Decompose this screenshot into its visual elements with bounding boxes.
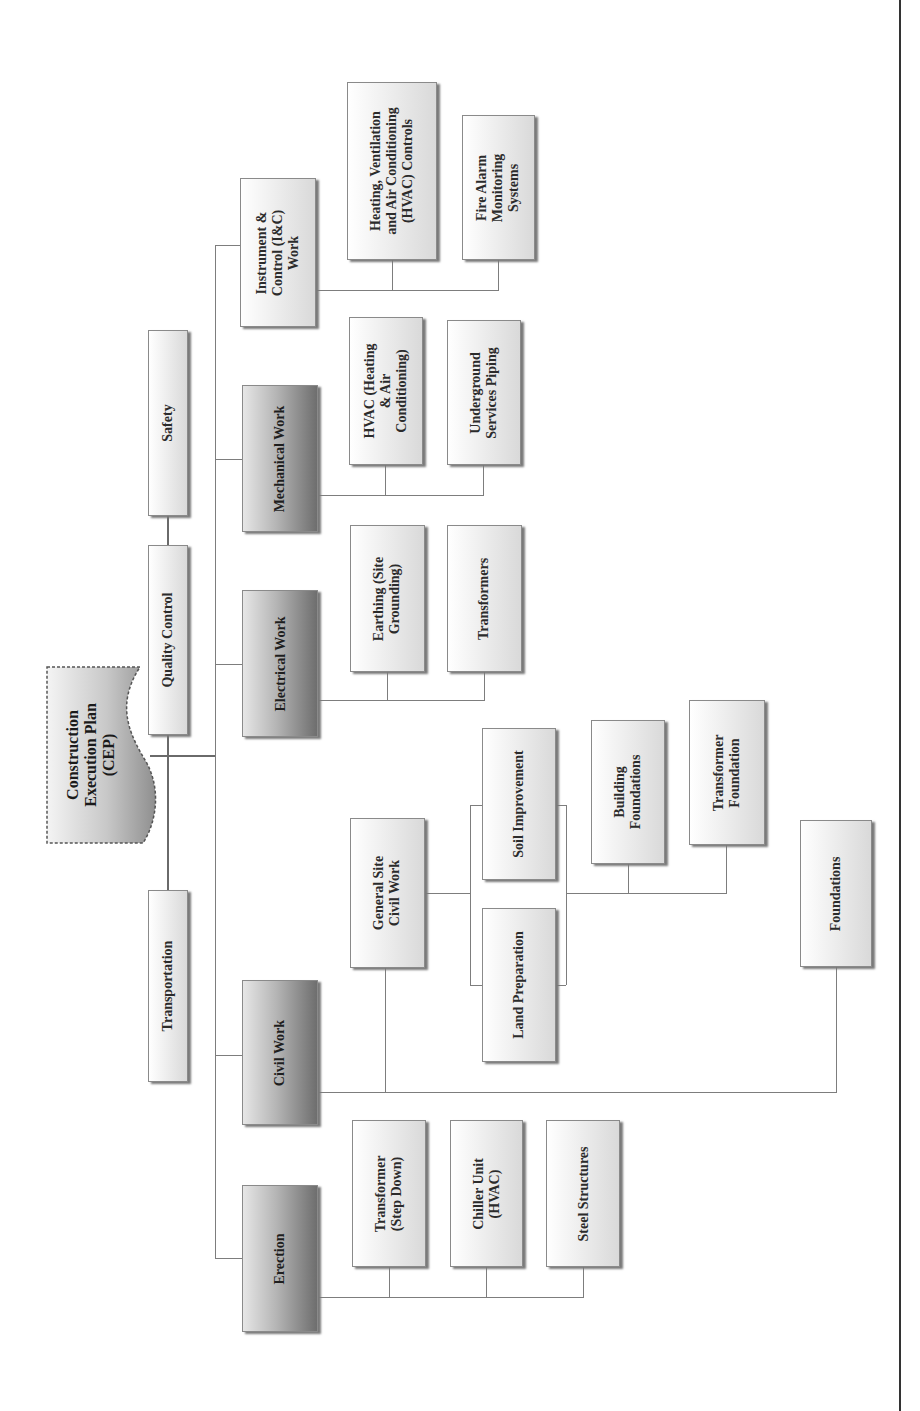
connector-bracket-right — [566, 805, 567, 985]
connector-mechanical-hvac — [385, 465, 386, 495]
node-label: Safety — [160, 404, 176, 441]
connector-ic-hvac-controls — [392, 260, 393, 290]
connector-electrical-transformers — [484, 672, 485, 700]
node-quality-control[interactable]: Quality Control — [148, 545, 188, 735]
node-label: Electrical Work — [272, 616, 288, 711]
node-label: Soil Improvement — [511, 750, 527, 857]
root-node-cep[interactable]: Construction Execution Plan (CEP) — [45, 665, 161, 845]
connector-bracket-left-bottom — [470, 985, 482, 986]
connector-civil-foundations — [836, 967, 837, 1092]
node-label: Quality Control — [160, 592, 176, 687]
connector-spine-civil — [215, 1055, 243, 1056]
connector-mechanical-underground — [483, 465, 484, 495]
node-building-foundations[interactable]: Building Foundations — [591, 720, 665, 864]
node-transformers[interactable]: Transformers — [447, 525, 522, 672]
connector-foundations-row — [566, 893, 727, 894]
node-label: Erection — [272, 1233, 288, 1284]
connector-general-site-to-bracket — [425, 893, 471, 894]
node-label: Earthing (Site Grounding) — [372, 556, 404, 640]
node-label: General Site Civil Work — [372, 856, 404, 930]
node-label: Civil Work — [272, 1019, 288, 1085]
node-transformer-foundation[interactable]: Transformer Foundation — [689, 700, 765, 845]
node-label: Steel Structures — [575, 1146, 591, 1241]
connector-spine-mechanical — [215, 459, 243, 460]
connector-bracket-left — [470, 805, 471, 985]
node-mechanical-work[interactable]: Mechanical Work — [242, 385, 318, 532]
node-label: HVAC (Heating & Air Conditioning) — [362, 343, 410, 438]
node-label: Mechanical Work — [272, 405, 288, 512]
node-soil-improvement[interactable]: Soil Improvement — [482, 728, 556, 880]
root-node-label: Construction Execution Plan (CEP) — [64, 703, 118, 807]
connector-erection-chiller — [486, 1267, 487, 1297]
node-electrical-work[interactable]: Electrical Work — [242, 590, 318, 737]
node-chiller-unit-hvac[interactable]: Chiller Unit (HVAC) — [450, 1120, 523, 1267]
node-label: Building Foundations — [612, 755, 644, 830]
node-label: Transformer Foundation — [711, 734, 743, 811]
node-label: Foundations — [828, 856, 844, 931]
node-civil-work[interactable]: Civil Work — [242, 980, 318, 1125]
connector-erection-steel — [583, 1267, 584, 1297]
cep-diagram-canvas: Construction Execution Plan (CEP) Safety… — [0, 0, 920, 1411]
node-label: Chiller Unit (HVAC) — [471, 1158, 503, 1230]
node-underground-services-piping[interactable]: Underground Services Piping — [447, 320, 521, 465]
connector-spine-erection — [215, 1258, 243, 1259]
connector-erection-children — [318, 1297, 584, 1298]
node-land-preparation[interactable]: Land Preparation — [482, 908, 556, 1062]
node-hvac-controls[interactable]: Heating, Ventilation and Air Conditionin… — [347, 82, 437, 260]
node-erection[interactable]: Erection — [242, 1185, 318, 1332]
connector-ic-fire-alarm — [498, 260, 499, 290]
node-label: Land Preparation — [511, 931, 527, 1038]
node-fire-alarm-monitoring[interactable]: Fire Alarm Monitoring Systems — [462, 115, 535, 260]
node-earthing-site-grounding[interactable]: Earthing (Site Grounding) — [350, 525, 425, 672]
connector-bracket-right-top — [556, 805, 566, 806]
connector-bracket-left-top — [470, 805, 482, 806]
connector-ic-children — [315, 290, 499, 291]
node-instrument-control-work[interactable]: Instrument & Control (I&C) Work — [240, 178, 316, 327]
node-foundations[interactable]: Foundations — [800, 820, 872, 967]
connector-transformer-foundation — [726, 845, 727, 893]
node-label: Transportation — [160, 941, 176, 1032]
node-label: Fire Alarm Monitoring Systems — [474, 153, 522, 221]
connector-bracket-right-bottom — [556, 985, 566, 986]
connector-building-foundations — [628, 864, 629, 893]
connector-civil-general-site — [385, 968, 386, 1092]
node-general-site-civil-work[interactable]: General Site Civil Work — [350, 818, 425, 968]
node-label: Underground Services Piping — [468, 347, 500, 438]
node-safety[interactable]: Safety — [148, 330, 188, 516]
connector-spine-electrical — [215, 664, 243, 665]
node-transformer-step-down[interactable]: Transformer (Step Down) — [352, 1120, 426, 1267]
node-label: Transformers — [477, 557, 493, 639]
node-hvac-heating-air-conditioning[interactable]: HVAC (Heating & Air Conditioning) — [349, 317, 423, 465]
connector-electrical-earthing — [387, 672, 388, 700]
connector-main-spine — [215, 245, 216, 1259]
connector-mechanical-children — [318, 495, 484, 496]
connector-erection-transformer — [389, 1267, 390, 1297]
node-label: Instrument & Control (I&C) Work — [254, 209, 302, 295]
node-label: Transformer (Step Down) — [373, 1155, 405, 1232]
page-border-line — [899, 0, 901, 1411]
node-label: Heating, Ventilation and Air Conditionin… — [368, 107, 416, 234]
connector-civil-children — [318, 1092, 837, 1093]
connector-spine-ic — [215, 245, 241, 246]
connector-electrical-children — [318, 700, 485, 701]
node-transportation[interactable]: Transportation — [148, 890, 188, 1082]
node-steel-structures[interactable]: Steel Structures — [546, 1120, 620, 1267]
